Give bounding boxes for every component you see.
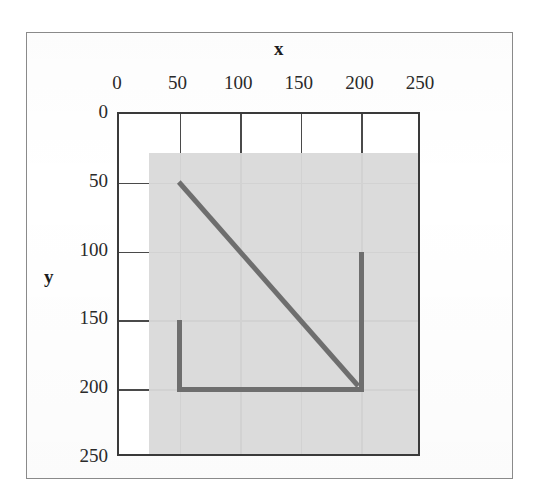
- x-tick-label: 100: [224, 72, 253, 94]
- coordinate-plot-figure: x y 050100150200250 050100150200250: [0, 0, 540, 502]
- left-vertical-line: [177, 320, 182, 391]
- right-vertical-line: [359, 252, 364, 392]
- y-tick-label: 0: [99, 101, 109, 123]
- x-tick-label: 200: [345, 72, 374, 94]
- bottom-horizontal-line: [180, 387, 364, 392]
- x-tick-label: 250: [406, 72, 435, 94]
- x-tick-label: 0: [112, 72, 122, 94]
- y-tick-label: 250: [80, 445, 109, 467]
- x-tick-label: 150: [285, 72, 314, 94]
- y-tick-label: 100: [80, 239, 109, 261]
- plot-area: [117, 112, 420, 456]
- y-tick-label: 50: [89, 170, 108, 192]
- y-tick-label: 200: [80, 376, 109, 398]
- diagonal-line: [179, 182, 358, 386]
- x-tick-label: 50: [168, 72, 187, 94]
- y-tick-label: 150: [80, 307, 109, 329]
- diagonal-line-svg: [119, 114, 418, 454]
- y-axis-tick-labels: 050100150200250: [60, 0, 108, 502]
- plot-inner: [119, 114, 418, 454]
- y-axis-title: y: [38, 266, 60, 288]
